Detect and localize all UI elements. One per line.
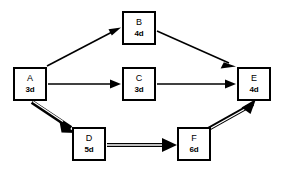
edge-c-to-e [157,80,236,89]
node-d-id: D [86,134,93,143]
node-f[interactable]: F 6d [177,127,211,161]
edge-d-to-f-critical [107,138,177,152]
edge-a-to-d-critical [32,102,76,134]
node-b-id: B [136,18,142,27]
node-b-duration: 4d [135,30,144,38]
node-f-id: F [191,134,197,143]
node-e-duration: 4d [250,86,259,94]
node-a-duration: 3d [26,86,35,94]
node-a-id: A [27,74,33,83]
edge-a-to-b [47,28,121,67]
node-c-id: C [136,74,143,83]
node-c-duration: 3d [135,86,144,94]
node-d[interactable]: D 5d [72,127,106,161]
edge-b-to-e [157,31,236,69]
node-a[interactable]: A 3d [13,67,47,101]
node-f-duration: 6d [190,146,199,154]
node-e-id: E [251,74,257,83]
node-c[interactable]: C 3d [122,67,156,101]
network-diagram: A 3d B 4d C 3d D 5d E 4d F 6d [0,0,283,170]
node-b[interactable]: B 4d [122,11,156,45]
node-d-duration: 5d [85,146,94,154]
node-e[interactable]: E 4d [237,67,271,101]
edge-a-to-c [48,80,121,89]
